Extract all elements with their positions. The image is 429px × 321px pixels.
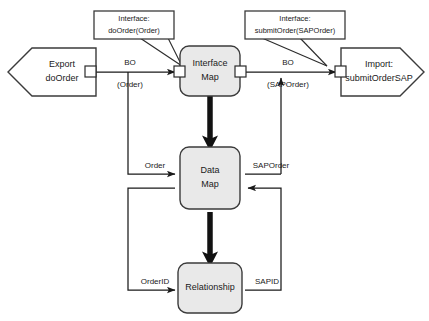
interface-map-shape: [180, 46, 240, 96]
export-label-line2: doOrder: [45, 73, 78, 83]
import-label-line1: Import:: [365, 59, 393, 69]
edge-label-saporder: SAPOrder: [253, 161, 290, 170]
export-shape: [8, 48, 96, 96]
bo-left-line2: (Order): [117, 80, 143, 89]
export-label-line1: Export: [49, 59, 76, 69]
data-map-shape: [180, 147, 240, 209]
callout-left[interactable]: Interface: doOrder(Order): [94, 11, 174, 39]
callout-right-leader-a: [262, 38, 327, 66]
callout-right-leader-b: [300, 38, 327, 66]
edge-label-orderid: OrderID: [141, 277, 170, 286]
node-interface-map[interactable]: Interface Map: [174, 46, 246, 96]
connector-sapid-to-data-map: [245, 188, 281, 290]
node-relationship[interactable]: Relationship: [178, 263, 242, 313]
edge-label-order: Order: [145, 161, 166, 170]
relationship-label: Relationship: [185, 282, 235, 292]
import-shape: [341, 48, 424, 96]
node-data-map[interactable]: Data Map: [180, 147, 240, 209]
interface-map-input-port[interactable]: [174, 66, 185, 77]
interface-map-label-line2: Map: [201, 72, 219, 82]
callout-right-line2: submitOrder(SAPOrder): [255, 26, 336, 35]
bo-right-line1: BO: [282, 58, 294, 67]
node-export[interactable]: Export doOrder: [8, 48, 96, 96]
callout-left-leader-a: [140, 38, 182, 66]
diagram-canvas: Export doOrder Interface Map Import: sub…: [0, 0, 429, 321]
callout-left-line1: Interface:: [118, 14, 149, 23]
export-output-port[interactable]: [85, 66, 96, 77]
bo-left-line1: BO: [124, 58, 136, 67]
edge-label-bo-right: BO (SAPOrder): [267, 58, 309, 89]
edge-label-sapid: SAPID: [255, 277, 279, 286]
node-import[interactable]: Import: submitOrderSAP: [335, 48, 424, 96]
interface-map-output-port[interactable]: [235, 66, 246, 77]
data-map-label-line1: Data: [200, 165, 219, 175]
import-input-port[interactable]: [335, 66, 346, 77]
edge-label-bo-left: BO (Order): [117, 58, 143, 89]
connector-orderid-to-relationship: [128, 188, 175, 290]
data-map-label-line2: Map: [201, 179, 219, 189]
import-label-line2: submitOrderSAP: [345, 73, 413, 83]
callout-right[interactable]: Interface: submitOrder(SAPOrder): [245, 11, 345, 39]
diagram-svg: Export doOrder Interface Map Import: sub…: [0, 0, 429, 321]
interface-map-label-line1: Interface: [192, 58, 227, 68]
callout-left-line2: doOrder(Order): [108, 26, 160, 35]
bo-right-line2: (SAPOrder): [267, 80, 309, 89]
callout-right-line1: Interface:: [279, 14, 310, 23]
